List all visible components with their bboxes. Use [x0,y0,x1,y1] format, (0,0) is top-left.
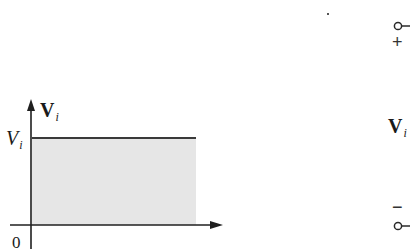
shaded-area [32,138,196,225]
y-axis-label-main: V [40,99,54,121]
level-label-subscript: i [19,138,22,152]
level-label: Vi [6,128,23,148]
diagram-canvas [0,0,410,251]
level-label-main: V [6,127,18,149]
y-axis-arrow-icon [27,99,35,111]
source-voltage-label-main: V [388,115,402,137]
negative-terminal-icon [394,222,401,229]
source-voltage-label-subscript: i [403,126,406,140]
speck-dot [327,13,329,15]
y-axis-label: Vi [40,100,59,120]
origin-label: 0 [12,234,21,251]
negative-sign: − [392,198,403,216]
positive-sign: + [392,33,403,51]
source-voltage-label: Vi [388,116,407,136]
x-axis-arrow-icon [210,221,223,229]
positive-terminal-icon [394,22,401,29]
y-axis-label-subscript: i [55,110,58,124]
